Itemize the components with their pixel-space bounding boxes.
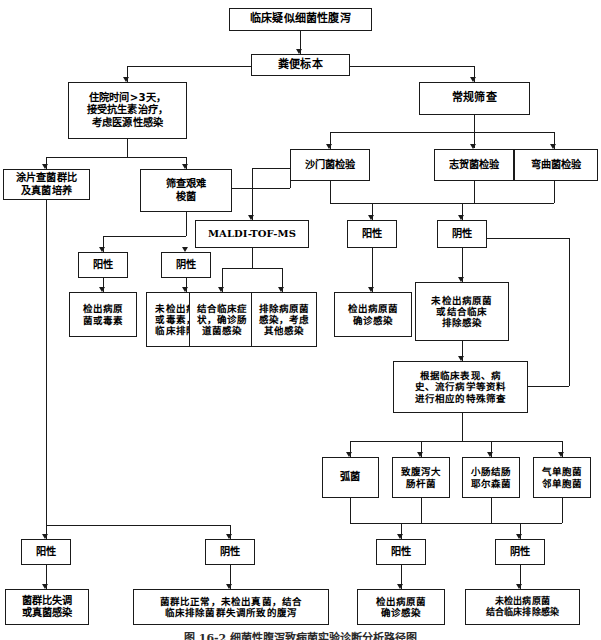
edge-neg-side-v [569,238,570,386]
edge-smear-long-drop [46,200,47,525]
edge-aeromonas-drop [562,498,563,523]
edge-tests-merge-bus [330,203,554,204]
edge-maldi-feed-h [252,168,290,169]
edge-nosocomial-bus [46,157,186,158]
node-routine-pos-result[interactable]: 检出病原菌 确诊感染 [334,292,412,337]
edge-routine-bus [330,132,554,133]
edge-maldi-bus [222,268,282,269]
node-yersinia[interactable]: 小肠结肠 耶尔森菌 [462,457,520,498]
node-flora-negative[interactable]: 阴性 [205,539,255,565]
node-special-negative[interactable]: 阴性 [495,539,545,565]
node-routine-screen[interactable]: 常规筛查 [419,82,530,115]
node-test-salmonella[interactable]: 沙门菌检验 [290,149,370,181]
node-routine-neg-result[interactable]: 未检出病原菌 或结合临床 排除感染 [415,282,509,341]
node-special-pos-result[interactable]: 检出病原菌 确诊感染 [357,589,445,625]
node-flora-positive[interactable]: 阳性 [21,539,71,565]
edge-nosocomial-drop [127,139,128,157]
node-flora-neg-result[interactable]: 菌群比正常，未检出真菌，结合 临床排除菌群失调所致的腹泻 [133,589,329,625]
edge-neg-side-h-top [486,238,569,239]
node-test-campylobacter[interactable]: 弯曲菌检验 [514,149,598,181]
node-cdiff-pos-result[interactable]: 检出病原 菌或毒素 [69,292,137,337]
edge-campylobacter-drop [554,181,555,203]
node-aeromonas[interactable]: 气单胞菌 邻单胞菌 [533,457,591,498]
node-special-screen[interactable]: 根据临床表现、病 史、流行病学等资料 进行相应的特殊筛查 [393,361,528,413]
edge-neg-side-h-bottom [523,386,569,387]
node-routine-positive[interactable]: 阳性 [347,220,397,248]
edge-agents-merge-bus [350,523,562,524]
flowchart-canvas: 临床疑似细菌性腹泻 粪便标本 住院时间>3天， 接受抗生素治疗， 考虑医源性感染… [0,0,601,640]
node-cdiff-positive[interactable]: 阳性 [78,252,128,278]
edge-routine-pos-drop [372,248,373,292]
node-smear-fungal[interactable]: 涂片查菌群比 及真菌培养 [3,169,90,200]
node-root[interactable]: 临床疑似细菌性腹泻 [229,8,372,31]
node-flora-pos-result[interactable]: 菌群比失调 或真菌感染 [5,589,89,625]
node-vibrio[interactable]: 弧菌 [322,457,379,498]
edge-vibrio-drop [350,498,351,523]
node-routine-negative[interactable]: 阴性 [437,220,487,248]
node-cdiff-negative[interactable]: 阴性 [161,252,211,278]
edge-cdiff-to-maldi-h [232,188,290,189]
node-nosocomial[interactable]: 住院时间>3天， 接受抗生素治疗， 考虑医源性感染 [68,82,187,139]
edge-salmonella-drop [330,181,331,203]
node-special-neg-result[interactable]: 未检出病原菌 结合临床排除感染 [465,589,580,625]
node-test-shigella[interactable]: 志贺菌检验 [434,149,514,181]
edge-special-drop [462,413,463,441]
node-specimen[interactable]: 粪便标本 [251,54,350,76]
edge-maldi-drop [252,248,253,268]
figure-caption: 图 16-2 细菌性腹泻致病菌实验诊断分析路径图 [0,629,601,640]
node-dec[interactable]: 致腹泻大 肠杆菌 [392,457,450,498]
edge-flora-bus [46,525,230,526]
edge-shigella-drop [474,181,475,203]
node-maldi[interactable]: MALDI-TOF-MS [195,220,309,248]
edge-cdiff-drop [186,212,187,236]
node-maldi-result-pos[interactable]: 结合临床症 状，确诊肠 道菌感染 [189,292,255,347]
node-screen-cdiff[interactable]: 筛查艰难 梭菌 [140,169,232,212]
edge-agents-bus [350,441,562,442]
edge-cdiff-bus [103,236,186,237]
node-maldi-result-neg[interactable]: 排除病原菌 感染，考虑 其他感染 [251,292,317,347]
node-special-positive[interactable]: 阳性 [376,539,426,565]
edge-yersinia-drop [491,498,492,523]
edge-dec-drop [421,498,422,523]
edge-maldi-feed-v [252,168,253,220]
